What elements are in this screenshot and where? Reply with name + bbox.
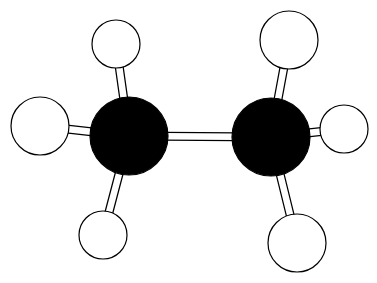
hydrogen-atom-h1: [92, 20, 140, 68]
hydrogen-atom-h2: [11, 97, 69, 155]
hydrogen-atom-h3: [79, 211, 127, 259]
hydrogen-atom-h4: [260, 11, 318, 69]
carbon-atom-c2: [232, 98, 310, 176]
hydrogen-atoms-layer: [11, 11, 368, 272]
ethane-molecule-diagram: [0, 0, 377, 283]
hydrogen-atom-h5: [320, 105, 368, 153]
carbon-atom-c1: [90, 97, 168, 175]
hydrogen-atom-h6: [268, 214, 326, 272]
